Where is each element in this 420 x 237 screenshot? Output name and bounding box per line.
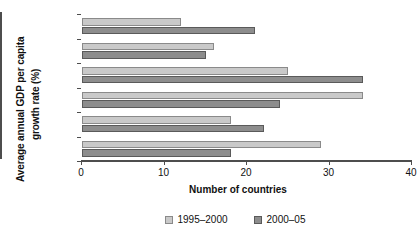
bar-chart: Average annual GDP per capita growth rat… xyxy=(0,0,420,237)
bar-0 xyxy=(82,92,363,100)
plot-area xyxy=(81,14,411,161)
y-axis-tick xyxy=(77,112,81,113)
legend-swatch-2000-05 xyxy=(254,216,262,224)
x-axis-tick-label: 0 xyxy=(78,167,84,178)
bar-0 xyxy=(82,116,231,124)
y-axis-line xyxy=(0,12,2,159)
x-axis-tick xyxy=(81,161,82,165)
bar-1 xyxy=(82,27,255,35)
legend-label-2000-05: 2000–05 xyxy=(267,214,306,225)
x-axis-tick xyxy=(164,161,165,165)
x-axis-tick xyxy=(329,161,330,165)
bar-0 xyxy=(82,141,321,149)
legend: 1995–2000 2000–05 xyxy=(50,214,420,225)
x-axis-title: Number of countries xyxy=(0,184,420,195)
legend-swatch-1995-2000 xyxy=(165,216,173,224)
x-axis-title-text: Number of countries xyxy=(189,184,287,195)
bar-0 xyxy=(82,67,288,75)
legend-label-1995-2000: 1995–2000 xyxy=(178,214,228,225)
y-axis-tick xyxy=(77,39,81,40)
y-axis-tick xyxy=(77,137,81,138)
bar-1 xyxy=(82,51,206,59)
bar-1 xyxy=(82,100,280,108)
bar-1 xyxy=(82,125,264,133)
bar-1 xyxy=(82,76,363,84)
x-axis-tick-label: 10 xyxy=(158,167,169,178)
x-axis-tick-label: 40 xyxy=(405,167,416,178)
y-axis-tick xyxy=(77,14,81,15)
x-axis-tick xyxy=(246,161,247,165)
y-axis-title: Average annual GDP per capita growth rat… xyxy=(0,0,40,190)
y-axis-title-line-2: growth rate (%) xyxy=(30,69,41,140)
y-axis-tick xyxy=(77,88,81,89)
bar-0 xyxy=(82,43,214,51)
y-axis-tick xyxy=(77,63,81,64)
x-axis-tick xyxy=(411,161,412,165)
bar-0 xyxy=(82,18,181,26)
legend-item[interactable]: 2000–05 xyxy=(254,214,306,225)
x-axis-tick-label: 30 xyxy=(323,167,334,178)
legend-item[interactable]: 1995–2000 xyxy=(165,214,228,225)
y-axis-tick xyxy=(77,161,81,162)
bar-1 xyxy=(82,149,231,157)
x-axis-tick-label: 20 xyxy=(240,167,251,178)
y-axis-title-line-1: Average annual GDP per capita xyxy=(15,37,26,183)
